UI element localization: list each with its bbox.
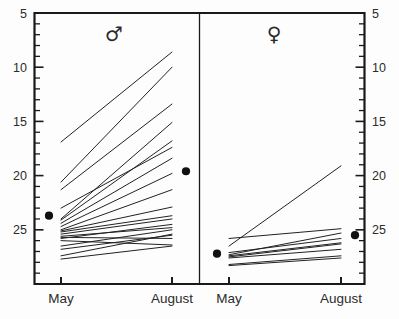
paired-line-chart: 252015105 252015105 MayAugustMayAugust ♂…	[0, 0, 399, 319]
y-axis-label-left: 15	[13, 115, 27, 129]
y-axis-right-labels: 252015105	[372, 7, 386, 238]
y-axis-left-labels: 252015105	[13, 7, 27, 238]
sex-symbols: ♂♀	[105, 22, 281, 46]
y-axis-label-right: 25	[372, 223, 386, 237]
mars-symbol: ♂	[105, 22, 123, 46]
figure-container: 252015105 252015105 MayAugustMayAugust ♂…	[0, 0, 399, 319]
mean-points	[45, 167, 359, 258]
series-line	[61, 158, 172, 223]
plot-frame	[35, 13, 365, 284]
series-line	[61, 67, 172, 182]
series-line	[61, 104, 172, 190]
x-label-male-august: August	[151, 291, 193, 306]
x-label-female-august: August	[320, 291, 362, 306]
y-axis-label-right: 20	[372, 169, 386, 183]
x-label-male-may: May	[48, 291, 74, 306]
y-axis-label-left: 25	[13, 223, 27, 237]
y-axis-right-ticks	[356, 13, 365, 284]
series-line	[61, 147, 172, 208]
y-axis-label-left: 20	[13, 169, 27, 183]
series-line	[61, 122, 172, 218]
series-line	[229, 258, 341, 266]
x-axis-labels: MayAugustMayAugust	[48, 291, 362, 306]
venus-symbol: ♀	[267, 22, 282, 46]
mean-dot-male-august	[182, 167, 190, 175]
mean-dot-female-august	[351, 231, 359, 239]
mean-dot-male-may	[45, 212, 53, 220]
mean-dot-female-may	[213, 250, 221, 258]
x-label-female-may: May	[216, 291, 242, 306]
series-line	[229, 233, 341, 255]
y-axis-label-right: 15	[372, 115, 386, 129]
male-series-lines	[61, 52, 172, 259]
y-axis-label-left: 10	[13, 61, 27, 75]
y-axis-label-left: 5	[20, 7, 27, 21]
series-line	[61, 52, 172, 142]
series-line	[61, 241, 172, 245]
y-axis-left-ticks	[35, 13, 44, 284]
series-line	[61, 141, 172, 220]
y-axis-label-right: 10	[372, 61, 386, 75]
y-axis-label-right: 5	[372, 7, 379, 21]
female-series-lines	[229, 166, 341, 266]
